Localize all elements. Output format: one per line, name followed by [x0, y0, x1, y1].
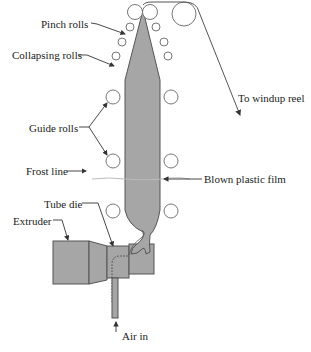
label-frost-line: Frost line [26, 165, 68, 177]
label-collapsing-rolls: Collapsing rolls [12, 49, 82, 61]
label-pinch-rolls: Pinch rolls [41, 18, 88, 30]
label-extruder: Extruder [13, 215, 51, 227]
label-tube-die: Tube die [44, 198, 82, 210]
label-windup-reel: To windup reel [238, 92, 304, 104]
windup-idler-roll [172, 2, 196, 26]
label-blown-film: Blown plastic film [204, 173, 286, 185]
extruder [53, 241, 107, 284]
label-guide-rolls: Guide rolls [29, 122, 78, 134]
label-air-in: Air in [122, 330, 148, 342]
blown-film-extrusion-diagram: Pinch rolls Collapsing rolls Guide rolls… [0, 0, 311, 352]
air-pipe [112, 278, 118, 318]
blown-film-bubble [125, 10, 160, 254]
